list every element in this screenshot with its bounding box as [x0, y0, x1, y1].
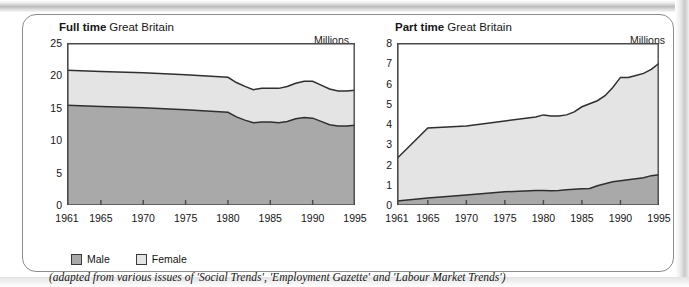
- chart-svg-full-time: [67, 43, 355, 205]
- legend: Male Female: [71, 253, 187, 265]
- chart-title-main: Full time: [59, 21, 106, 33]
- x-axis-tick-label: 1970: [132, 212, 155, 224]
- x-axis-tick-label: 1985: [259, 212, 282, 224]
- chart-svg-part-time: [397, 43, 659, 205]
- x-axis-tick-label: 1995: [647, 212, 670, 224]
- y-axis-tick-label: 7: [386, 57, 392, 69]
- plot-area-full-time: 0510152025196119651970197519801985199019…: [67, 43, 355, 205]
- y-axis-tick-label: 2: [386, 159, 392, 171]
- x-axis-tick-label: 1965: [416, 212, 439, 224]
- y-axis-tick-label: 25: [50, 37, 62, 49]
- y-axis-tick-label: 3: [386, 138, 392, 150]
- chart-title-region: Great Britain: [447, 21, 512, 33]
- chart-title-full-time: Full timeGreat Britain: [59, 21, 174, 33]
- y-axis-tick-label: 0: [56, 199, 62, 211]
- x-axis-tick-label: 1980: [532, 212, 555, 224]
- x-axis-tick-label: 1990: [301, 212, 324, 224]
- x-axis-tick-label: 1980: [216, 212, 239, 224]
- figure-caption: (adapted from various issues of 'Social …: [49, 271, 506, 283]
- area-male: [67, 105, 355, 205]
- x-axis-tick-label: 1961: [385, 212, 408, 224]
- legend-item-male: Male: [71, 253, 110, 265]
- legend-swatch-female: [136, 254, 147, 265]
- y-axis-tick-label: 1: [386, 179, 392, 191]
- x-axis-tick-label: 1995: [343, 212, 366, 224]
- legend-item-female: Female: [136, 253, 187, 265]
- x-axis-tick-label: 1975: [174, 212, 197, 224]
- chart-panel-full-time: Full timeGreat Britain Millions 05101520…: [37, 15, 367, 247]
- x-axis-tick-label: 1961: [55, 212, 78, 224]
- y-axis-tick-label: 6: [386, 78, 392, 90]
- scan-band-right: [675, 0, 689, 287]
- y-axis-tick-label: 8: [386, 37, 392, 49]
- y-axis-tick-label: 0: [386, 199, 392, 211]
- chart-title-main: Part time: [395, 21, 444, 33]
- x-axis-tick-label: 1970: [455, 212, 478, 224]
- y-axis-tick-label: 5: [56, 167, 62, 179]
- chart-panel-part-time: Part timeGreat Britain Millions 01234567…: [373, 15, 673, 247]
- chart-title-part-time: Part timeGreat Britain: [395, 21, 512, 33]
- legend-label-female: Female: [152, 253, 187, 265]
- y-axis-tick-label: 10: [50, 134, 62, 146]
- figure-container: Full timeGreat Britain Millions 05101520…: [22, 14, 674, 272]
- chart-title-region: Great Britain: [109, 21, 174, 33]
- x-axis-tick-label: 1985: [570, 212, 593, 224]
- legend-swatch-male: [71, 254, 82, 265]
- x-axis-tick-label: 1975: [493, 212, 516, 224]
- y-axis-tick-label: 15: [50, 102, 62, 114]
- y-axis-tick-label: 4: [386, 118, 392, 130]
- x-axis-tick-label: 1965: [89, 212, 112, 224]
- x-axis-tick-label: 1990: [609, 212, 632, 224]
- legend-label-male: Male: [87, 253, 110, 265]
- plot-area-part-time: 0123456781961196519701975198019851990199…: [397, 43, 659, 205]
- scan-band-top: [0, 0, 689, 12]
- y-axis-tick-label: 5: [386, 98, 392, 110]
- y-axis-tick-label: 20: [50, 69, 62, 81]
